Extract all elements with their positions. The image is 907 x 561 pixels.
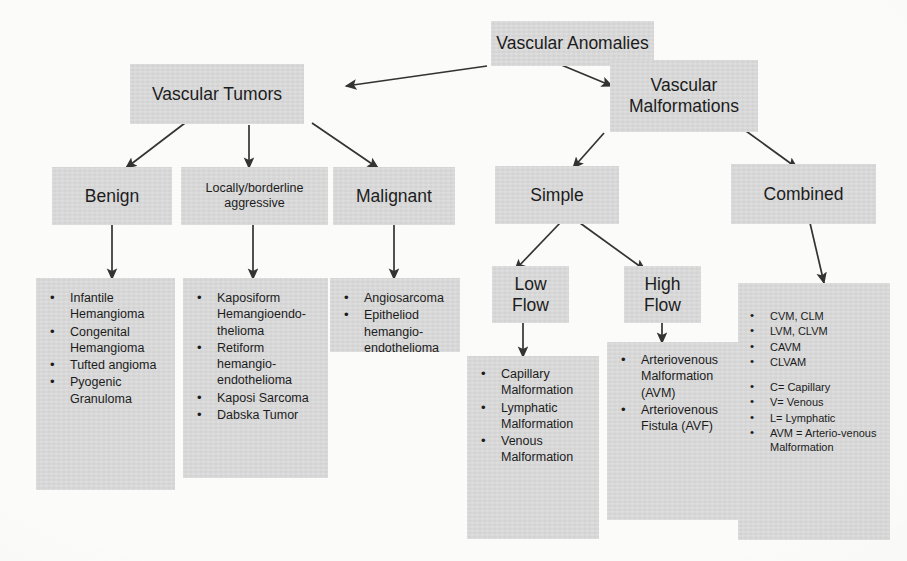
list-item: Arteriovenous Fistula (AVF) <box>611 402 733 435</box>
node-label-line2: aggressive <box>206 196 304 211</box>
list-item: CLVAM <box>740 355 884 369</box>
edge-tumors-to-benign <box>126 123 185 168</box>
list-box-benign[interactable]: Infantile Hemangioma Congenital Hemangio… <box>36 278 175 490</box>
edge-tumors-to-malignant <box>312 123 378 168</box>
node-label-line2: Flow <box>512 295 549 316</box>
list-item: Epitheliod hemangio-endothelioma <box>334 307 454 356</box>
list-item: LVM, CLVM <box>740 324 884 338</box>
edge-combined-to-list <box>810 223 824 283</box>
node-simple[interactable]: Simple <box>495 166 619 224</box>
list-box-high-flow[interactable]: Arteriovenous Malformation (AVM) Arterio… <box>607 342 739 520</box>
list-item: CAVM <box>740 340 884 354</box>
node-label-line1: Low <box>512 274 549 295</box>
node-label: Malignant <box>356 186 432 207</box>
node-label: High Flow <box>644 274 681 315</box>
list-item: L= Lymphatic <box>740 411 884 425</box>
node-label: Combined <box>764 184 844 205</box>
node-label: Low Flow <box>512 274 549 315</box>
node-label: Vascular Anomalies <box>496 33 648 54</box>
node-label: Locally/borderline aggressive <box>206 181 304 211</box>
list-box-combined[interactable]: CVM, CLM LVM, CLVM CAVM CLVAM C= Capilla… <box>738 283 890 540</box>
benign-list: Infantile Hemangioma Congenital Hemangio… <box>40 290 169 407</box>
list-item: Arteriovenous Malformation (AVM) <box>611 352 733 401</box>
list-item: Kaposi Sarcoma <box>187 390 322 406</box>
node-low-flow[interactable]: Low Flow <box>492 266 569 323</box>
edge-root-to-tumors <box>346 66 487 86</box>
edge-root-to-malformations <box>559 64 612 86</box>
list-item: AVM = Arterio-venous Malformation <box>740 426 884 455</box>
list-box-malignant[interactable]: Angiosarcoma Epitheliod hemangio-endothe… <box>330 278 460 352</box>
edge-simple-to-highflow <box>580 223 645 270</box>
node-benign[interactable]: Benign <box>52 167 172 225</box>
node-label-line2: Flow <box>644 295 681 316</box>
list-box-low-flow[interactable]: Capillary Malformation Lymphatic Malform… <box>467 356 599 539</box>
node-label-line1: High <box>644 274 681 295</box>
node-label: Benign <box>85 186 140 207</box>
list-item: Capillary Malformation <box>471 366 593 399</box>
list-item: Dabska Tumor <box>187 407 322 423</box>
list-box-locally-aggressive[interactable]: Kaposiform Hemangioendo-thelioma Retifor… <box>183 278 328 478</box>
list-item: Angiosarcoma <box>334 290 454 306</box>
node-combined[interactable]: Combined <box>731 164 876 224</box>
list-item: C= Capillary <box>740 380 884 394</box>
edge-malformations-to-combined <box>746 131 797 168</box>
list-item: Pyogenic Granuloma <box>40 374 169 407</box>
list-item: Venous Malformation <box>471 433 593 466</box>
edge-simple-to-lowflow <box>515 223 560 270</box>
node-label: Vascular Tumors <box>152 84 282 105</box>
malignant-list: Angiosarcoma Epitheliod hemangio-endothe… <box>334 290 454 356</box>
node-vascular-tumors[interactable]: Vascular Tumors <box>130 64 304 124</box>
list-item: CVM, CLM <box>740 309 884 323</box>
list-item: Congenital Hemangioma <box>40 324 169 357</box>
node-label-line2: Malformations <box>629 96 739 117</box>
list-item: V= Venous <box>740 395 884 409</box>
node-locally-borderline-aggressive[interactable]: Locally/borderline aggressive <box>181 167 328 225</box>
diagram-canvas: Vascular Anomalies Vascular Tumors Vascu… <box>0 0 907 561</box>
node-label: Vascular Malformations <box>629 75 739 116</box>
list-item: Kaposiform Hemangioendo-thelioma <box>187 290 322 339</box>
node-malignant[interactable]: Malignant <box>333 167 455 225</box>
list-item: Tufted angioma <box>40 357 169 373</box>
locally-aggressive-list: Kaposiform Hemangioendo-thelioma Retifor… <box>187 290 322 423</box>
edge-malformations-to-simple <box>573 133 604 168</box>
node-vascular-malformations[interactable]: Vascular Malformations <box>610 60 758 132</box>
combined-list: CVM, CLM LVM, CLVM CAVM CLVAM C= Capilla… <box>740 309 884 455</box>
low-flow-list: Capillary Malformation Lymphatic Malform… <box>471 366 593 466</box>
high-flow-list: Arteriovenous Malformation (AVM) Arterio… <box>611 352 733 434</box>
node-high-flow[interactable]: High Flow <box>624 266 701 323</box>
list-item: Infantile Hemangioma <box>40 290 169 323</box>
list-item: Lymphatic Malformation <box>471 400 593 433</box>
list-item: Retiform hemangio-endothelioma <box>187 340 322 389</box>
node-label: Simple <box>530 185 584 206</box>
node-label-line1: Locally/borderline <box>206 181 304 196</box>
node-label-line1: Vascular <box>629 75 739 96</box>
